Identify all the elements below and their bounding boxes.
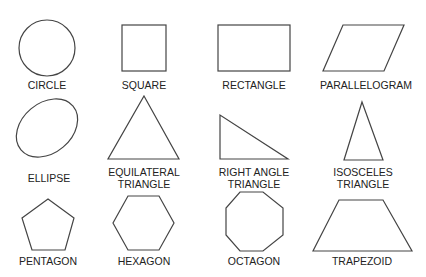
isosceles-triangle-shape [344,102,383,160]
parallelogram-shape [323,25,404,71]
hexagon-label: HEXAGON [89,255,199,267]
rectangle-label: RECTANGLE [199,79,309,91]
circle-label: CIRCLE [0,79,102,91]
square-shape [122,25,166,71]
parallelogram-label: PARALLELOGRAM [311,79,421,91]
pentagon-shape [22,199,74,250]
trapezoid-shape [313,200,412,251]
equilateral-triangle-label: EQUILATERAL TRIANGLE [89,166,199,190]
trapezoid-label: TRAPEZOID [307,255,417,267]
octagon-shape [226,192,283,251]
ellipse-shape [5,87,89,169]
rectangle-shape [218,25,290,71]
isosceles-triangle-label: ISOSCELES TRIANGLE [308,166,418,190]
circle-shape [19,20,75,76]
pentagon-label: PENTAGON [0,255,103,267]
hexagon-shape [113,196,174,250]
octagon-label: OCTAGON [199,255,309,267]
right-angle-triangle-shape [220,115,288,159]
shapes-diagram [0,0,426,277]
right-angle-triangle-label: RIGHT ANGLE TRIANGLE [199,166,309,190]
equilateral-triangle-shape [108,96,179,159]
square-label: SQUARE [89,79,199,91]
